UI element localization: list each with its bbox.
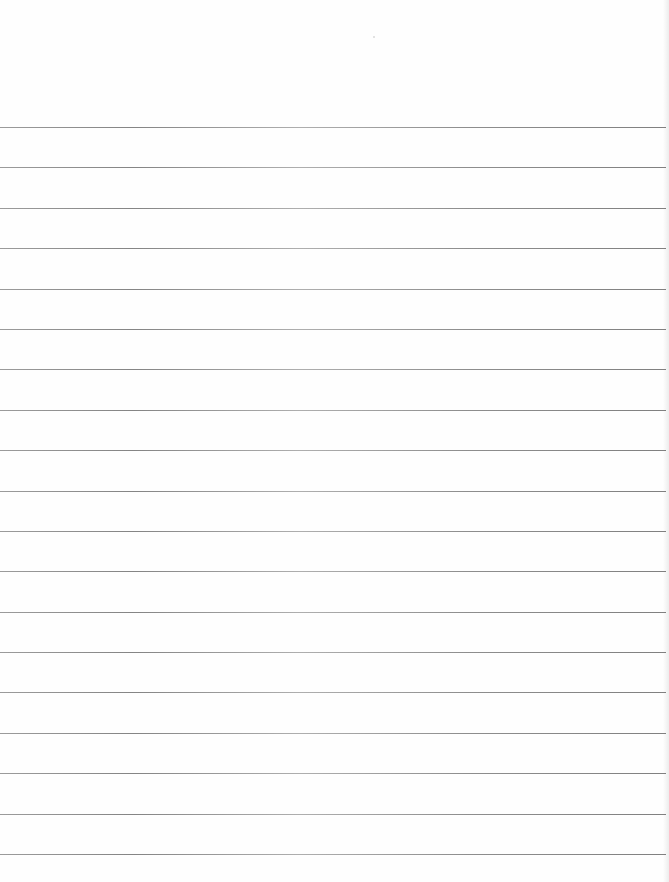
ruled-line (0, 773, 666, 774)
ruled-line (0, 854, 666, 855)
ruled-line (0, 814, 666, 815)
ruled-line (0, 571, 666, 572)
ruled-line (0, 410, 666, 411)
ruled-line (0, 450, 666, 451)
ruled-line (0, 127, 666, 128)
ruled-line (0, 208, 666, 209)
ruled-line (0, 248, 666, 249)
ruled-line (0, 167, 666, 168)
ruled-line (0, 531, 666, 532)
paper-speck (373, 36, 375, 38)
ruled-line (0, 733, 666, 734)
ruled-line (0, 652, 666, 653)
ruled-line (0, 289, 666, 290)
ruled-line (0, 369, 666, 370)
ruled-line (0, 491, 666, 492)
page-edge-shadow (663, 0, 669, 882)
ruled-line (0, 329, 666, 330)
ruled-line (0, 612, 666, 613)
ruled-line (0, 692, 666, 693)
lined-paper-sheet (0, 0, 669, 882)
